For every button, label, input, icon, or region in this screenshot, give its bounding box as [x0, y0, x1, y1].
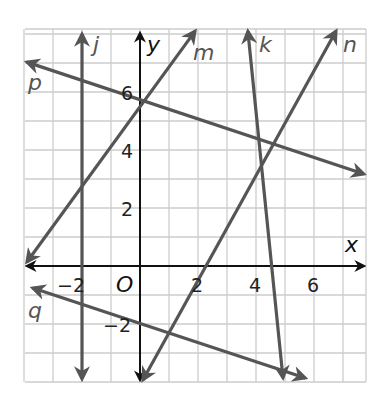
- label-n: n: [343, 32, 357, 57]
- label-x: x: [344, 232, 359, 257]
- label-j: j: [90, 32, 100, 57]
- x-tick--2: −2: [57, 274, 85, 296]
- x-tick-2: 2: [191, 274, 203, 296]
- y-tick-2: 2: [121, 198, 133, 220]
- coordinate-plane: j y m k n p q x O −2 2 4 6 6 4 2 −2: [0, 0, 382, 406]
- line-n: [143, 31, 336, 380]
- label-y: y: [146, 32, 161, 57]
- lines: [27, 31, 364, 380]
- x-tick-6: 6: [307, 274, 319, 296]
- y-tick-6: 6: [121, 82, 133, 104]
- label-origin: O: [116, 272, 133, 297]
- label-m: m: [193, 40, 214, 65]
- y-tick-4: 4: [121, 140, 133, 162]
- line-p: [27, 62, 364, 174]
- label-k: k: [259, 32, 273, 57]
- grid: [24, 29, 366, 382]
- x-tick-4: 4: [249, 274, 261, 296]
- label-p: p: [27, 70, 42, 95]
- label-q: q: [28, 298, 42, 323]
- line-k: [248, 31, 283, 378]
- y-tick--2: −2: [103, 314, 131, 336]
